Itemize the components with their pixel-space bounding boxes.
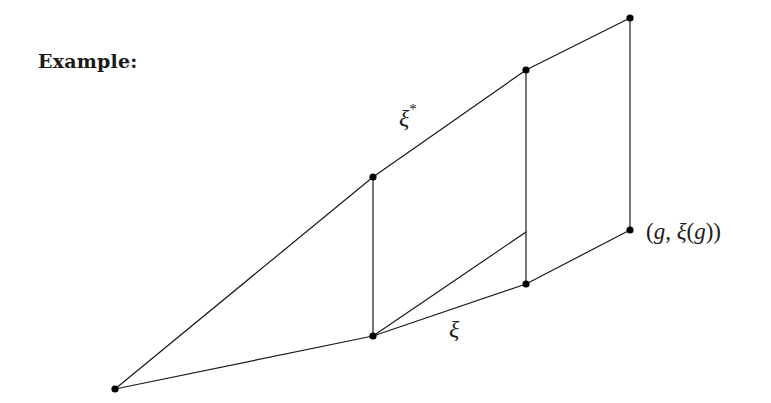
- vertex-B: [369, 173, 376, 180]
- edge-upper-3: [526, 18, 630, 70]
- edge-lower-3: [526, 230, 630, 284]
- label-xi-star: ξ*: [399, 104, 417, 132]
- edge-upper-1: [115, 177, 373, 389]
- paren-close: )): [706, 219, 721, 244]
- label-point-g-xi-g: (g, ξ(g)): [646, 219, 721, 245]
- vertex-G: [626, 226, 633, 233]
- label-xi: ξ: [449, 316, 459, 343]
- vertex-E: [522, 280, 529, 287]
- vertex-D: [522, 66, 529, 73]
- var-xi: ξ: [677, 219, 687, 244]
- var-g: g: [654, 219, 666, 244]
- xi-star-symbol: ξ: [399, 105, 409, 131]
- edge-lower-1: [115, 336, 373, 389]
- graph-diagram: [0, 0, 771, 403]
- vertex-C: [369, 332, 376, 339]
- vertex-F: [626, 14, 633, 21]
- edge-upper-2: [373, 70, 526, 177]
- diagram-canvas: Example: ξ* ξ (g,: [0, 0, 771, 403]
- paren-open: (: [646, 219, 654, 244]
- xi-star-superscript: *: [409, 101, 417, 117]
- var-g-inner: g: [694, 219, 706, 244]
- comma: ,: [665, 219, 677, 244]
- vertex-A: [111, 385, 118, 392]
